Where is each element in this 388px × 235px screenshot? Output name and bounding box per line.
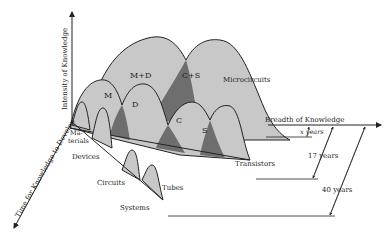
label-devices: Devices: [72, 153, 100, 161]
span-x-years: x years: [300, 128, 324, 136]
label-microcircuits: Microcircuits: [223, 76, 271, 84]
label-materials-2: terials: [68, 137, 89, 145]
intensity-axis-label: Intensity of Knowledge: [61, 28, 69, 110]
label-circuits: Circuits: [97, 179, 125, 187]
peak-label-c: C: [176, 116, 182, 125]
peak-label-d: D: [132, 100, 138, 109]
breadth-axis-label: Breadth of Knowledge: [265, 116, 344, 124]
label-transistors: Transistors: [235, 160, 275, 168]
label-tubes: Tubes: [162, 184, 184, 192]
label-systems: Systems: [120, 204, 150, 212]
span-40-years: 40 years: [322, 186, 353, 194]
peak-label-s: S: [202, 126, 207, 135]
peak-label-m: M: [104, 91, 112, 100]
time-axis-label: Time for Knowledge to Develop: [14, 118, 77, 219]
knowledge-development-diagram: Intensity of Knowledge Breadth of Knowle…: [0, 0, 388, 235]
label-materials-1: Ma-: [70, 129, 83, 137]
peak-label-cs: C+S: [182, 71, 200, 80]
peak-label-md: M+D: [130, 71, 151, 80]
span-17-years: 17 years: [308, 152, 339, 160]
